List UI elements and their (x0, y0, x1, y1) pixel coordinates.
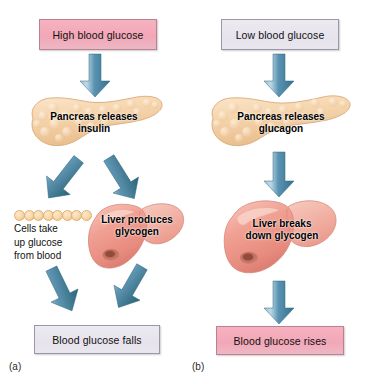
box-blood-glucose-falls[interactable]: Blood glucose falls (34, 325, 160, 354)
liver-graphic-a (86, 199, 186, 281)
panel-a: High blood glucose (0, 0, 188, 384)
box-blood-glucose-rises[interactable]: Blood glucose rises (216, 326, 344, 355)
panel-b: Low blood glucose (187, 0, 375, 384)
arrow-liver-to-glucose-rises (263, 281, 297, 325)
cells-take-up-glucose-label: Cells take up glucose from blood (14, 222, 94, 263)
box-low-blood-glucose[interactable]: Low blood glucose (221, 19, 339, 50)
glucose-cell-chain (14, 210, 90, 221)
liver-label-a: Liver produces glycogen (86, 214, 188, 238)
pancreas-label-b: Pancreas releases glucagon (187, 111, 375, 135)
box-low-blood-glucose-label: Low blood glucose (236, 29, 325, 41)
panel-a-caption: (a) (9, 361, 21, 372)
liver-label-b: Liver breaks down glycogen (207, 218, 357, 242)
box-high-blood-glucose-label: High blood glucose (52, 29, 143, 41)
arrow-pancreas-to-liver-b (263, 152, 297, 198)
blood-glucose-regulation-diagram: High blood glucose (0, 0, 375, 384)
arrow-pancreas-to-cells (25, 158, 87, 216)
box-blood-glucose-falls-label: Blood glucose falls (52, 334, 141, 346)
pancreas-label-a: Pancreas releases insulin (0, 111, 188, 135)
box-blood-glucose-rises-label: Blood glucose rises (234, 335, 327, 347)
panel-b-caption: (b) (192, 361, 204, 372)
box-high-blood-glucose[interactable]: High blood glucose (39, 19, 157, 50)
